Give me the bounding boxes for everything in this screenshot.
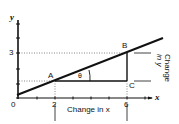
- change-in-y-label: Change in y: [155, 54, 171, 82]
- y-tick-label-3: 3: [9, 49, 13, 57]
- angle-theta-label: θ: [78, 72, 82, 79]
- y-axis-label: y: [10, 13, 14, 22]
- straight-line: [17, 38, 163, 95]
- x-axis-label: x: [155, 93, 160, 102]
- change-in-x-label: Change in x: [67, 106, 110, 114]
- origin-label: 0: [11, 101, 15, 109]
- angle-arc-icon: [89, 70, 90, 81]
- x-axis-arrow-icon: [148, 97, 153, 100]
- x-tick-label-6: 6: [124, 101, 128, 109]
- change-in-y-line1: Change: [163, 54, 171, 82]
- x-tick-label-2: 2: [52, 101, 56, 109]
- change-in-y-line2: in y: [155, 54, 163, 82]
- change-in-x-text: Change in x: [67, 105, 110, 114]
- point-B-label: B: [122, 42, 127, 50]
- point-A-label: A: [48, 72, 53, 80]
- point-C-label: C: [129, 82, 135, 90]
